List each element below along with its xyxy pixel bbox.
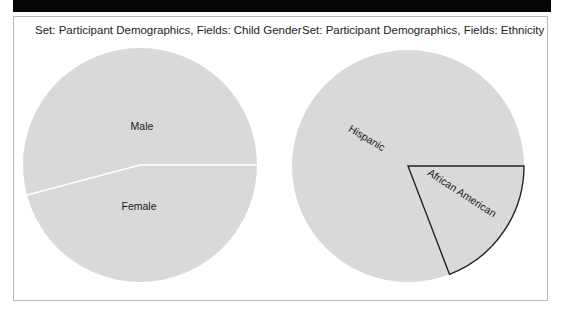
pie-charts: Male Female Hispanic African American <box>0 0 562 315</box>
slice-label-female: Female <box>121 200 156 212</box>
ethnicity-pie: Hispanic African American <box>292 50 524 282</box>
slice-label-male: Male <box>131 120 154 132</box>
gender-pie: Male Female <box>23 48 257 282</box>
